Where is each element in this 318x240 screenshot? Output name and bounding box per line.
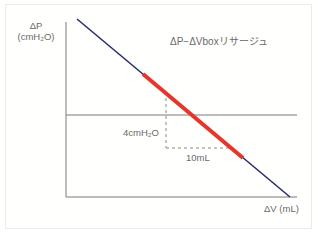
y-axis-unit: (cmH₂O) [14,31,58,42]
diagram-title: ΔP−ΔVboxリサージュ [170,36,268,47]
x-axis-label: ΔV (mL) [264,203,299,214]
y-axis-symbol: ΔP [14,20,58,31]
y-axis-label: ΔP (cmH₂O) [14,20,58,42]
delta-v-annotation: 10mL [186,152,210,163]
highlighted-segment [143,74,243,158]
delta-p-annotation: 4cmH₂O [123,127,159,138]
